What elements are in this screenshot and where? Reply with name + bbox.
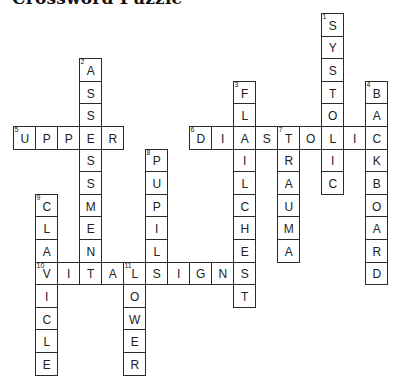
crossword-cell[interactable]: H	[233, 216, 257, 240]
crossword-cell[interactable]: S	[233, 262, 257, 286]
crossword-cell[interactable]: B	[365, 171, 389, 195]
crossword-cell[interactable]: W	[123, 307, 147, 331]
clue-number: 1	[323, 13, 327, 20]
crossword-cell[interactable]: M	[277, 216, 301, 240]
crossword-cell[interactable]: O	[299, 126, 323, 150]
crossword-cell[interactable]: 7T	[277, 126, 301, 150]
crossword-cell[interactable]: S	[145, 262, 169, 286]
cell-letter: A	[240, 130, 249, 146]
crossword-cell[interactable]: I	[35, 284, 59, 308]
crossword-cell[interactable]: S	[321, 58, 345, 82]
crossword-cell[interactable]: T	[79, 262, 103, 286]
crossword-cell[interactable]: S	[79, 149, 103, 173]
crossword-cell[interactable]: O	[321, 103, 345, 127]
crossword-cell[interactable]: A	[277, 239, 301, 263]
cell-letter: D	[371, 265, 381, 281]
cell-letter: P	[152, 152, 161, 168]
crossword-cell[interactable]: C	[233, 194, 257, 218]
crossword-cell[interactable]: S	[79, 171, 103, 195]
crossword-cell[interactable]: U	[277, 194, 301, 218]
crossword-cell[interactable]: 10V	[35, 262, 59, 286]
cell-letter: L	[240, 175, 248, 191]
crossword-cell[interactable]: 9C	[35, 194, 59, 218]
crossword-cell[interactable]: P	[57, 126, 81, 150]
crossword-cell[interactable]: 3F	[233, 81, 257, 105]
crossword-cell[interactable]: L	[145, 239, 169, 263]
clue-number: 9	[37, 194, 41, 201]
crossword-cell[interactable]: A	[365, 216, 389, 240]
crossword-cell[interactable]: A	[233, 126, 257, 150]
cell-letter: L	[42, 220, 50, 236]
crossword-cell[interactable]: A	[365, 103, 389, 127]
cell-letter: L	[152, 243, 160, 259]
crossword-cell[interactable]: P	[145, 194, 169, 218]
crossword-cell[interactable]: R	[277, 149, 301, 173]
crossword-cell[interactable]: D	[365, 262, 389, 286]
crossword-cell[interactable]: M	[79, 194, 103, 218]
crossword-cell[interactable]: Y	[321, 36, 345, 60]
crossword-cell[interactable]: N	[211, 262, 235, 286]
crossword-cell[interactable]: I	[145, 216, 169, 240]
cell-letter: M	[283, 220, 294, 236]
crossword-cell[interactable]: I	[167, 262, 191, 286]
crossword-cell[interactable]: R	[365, 239, 389, 263]
crossword-cell[interactable]: L	[35, 329, 59, 353]
crossword-cell[interactable]: S	[255, 126, 279, 150]
crossword-cell[interactable]: S	[79, 81, 103, 105]
crossword-cell[interactable]: L	[321, 126, 345, 150]
crossword-cell[interactable]: T	[233, 284, 257, 308]
crossword-cell[interactable]: C	[365, 126, 389, 150]
crossword-cell[interactable]: 1S	[321, 13, 345, 37]
crossword-cell[interactable]: L	[35, 216, 59, 240]
crossword-cell[interactable]: R	[123, 352, 147, 376]
crossword-cell[interactable]: 2A	[79, 58, 103, 82]
cell-letter: P	[42, 130, 51, 146]
cell-letter: S	[86, 152, 95, 168]
crossword-cell[interactable]: A	[35, 239, 59, 263]
clue-number: 10	[37, 262, 45, 269]
crossword-cell[interactable]: E	[123, 329, 147, 353]
cell-letter: I	[242, 152, 246, 168]
cell-letter: D	[195, 130, 205, 146]
crossword-cell[interactable]: L	[233, 103, 257, 127]
crossword-cell[interactable]: U	[145, 171, 169, 195]
crossword-cell[interactable]: 5U	[13, 126, 37, 150]
crossword-cell[interactable]: E	[79, 216, 103, 240]
crossword-cell[interactable]: S	[79, 103, 103, 127]
cell-letter: U	[151, 175, 161, 191]
cell-letter: F	[240, 85, 248, 101]
crossword-cell[interactable]: E	[79, 126, 103, 150]
crossword-cell[interactable]: R	[101, 126, 125, 150]
crossword-cell[interactable]: K	[365, 149, 389, 173]
crossword-cell[interactable]: 4B	[365, 81, 389, 105]
crossword-cell[interactable]: 11L	[123, 262, 147, 286]
crossword-cell[interactable]: G	[189, 262, 213, 286]
cell-letter: N	[85, 243, 95, 259]
crossword-cell[interactable]: A	[277, 171, 301, 195]
crossword-cell[interactable]: 6D	[189, 126, 213, 150]
crossword-cell[interactable]: P	[35, 126, 59, 150]
crossword-cell[interactable]: O	[365, 194, 389, 218]
cell-letter: O	[327, 107, 337, 123]
clue-number: 4	[367, 81, 371, 88]
cell-letter: A	[284, 175, 293, 191]
crossword-cell[interactable]: I	[343, 126, 367, 150]
crossword-cell[interactable]: I	[211, 126, 235, 150]
crossword-cell[interactable]: I	[57, 262, 81, 286]
crossword-cell[interactable]: E	[233, 239, 257, 263]
crossword-cell[interactable]: I	[321, 149, 345, 173]
crossword-cell[interactable]: A	[101, 262, 125, 286]
crossword-cell[interactable]: C	[321, 171, 345, 195]
crossword-cell[interactable]: T	[321, 81, 345, 105]
cell-letter: S	[86, 175, 95, 191]
crossword-cell[interactable]: 8P	[145, 149, 169, 173]
crossword-cell[interactable]: E	[35, 352, 59, 376]
cell-letter: O	[129, 288, 139, 304]
cell-letter: S	[152, 265, 161, 281]
crossword-cell[interactable]: L	[233, 171, 257, 195]
crossword-cell[interactable]: I	[233, 149, 257, 173]
crossword-cell[interactable]: C	[35, 307, 59, 331]
cell-letter: C	[41, 198, 51, 214]
crossword-cell[interactable]: N	[79, 239, 103, 263]
crossword-cell[interactable]: O	[123, 284, 147, 308]
